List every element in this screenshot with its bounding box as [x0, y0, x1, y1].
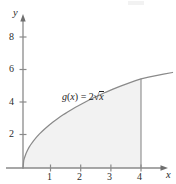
- x-tick-label-2: 2: [77, 172, 82, 182]
- y-tick-label-2: 2: [9, 129, 14, 139]
- x-tick-label-3: 3: [107, 172, 112, 182]
- x-axis-label: x: [166, 170, 171, 181]
- y-axis-label: y: [13, 8, 18, 19]
- figure-container: 8 6 4 2 1 2 3 4 y x g(x) = 2√x: [0, 0, 176, 184]
- equals-sign: =: [78, 91, 89, 102]
- x-tick-label-1: 1: [47, 172, 52, 182]
- y-tick-label-8: 8: [9, 32, 14, 42]
- radicand: x: [99, 91, 104, 102]
- y-tick-label-6: 6: [9, 64, 14, 74]
- x-tick-label-4: 4: [137, 172, 142, 182]
- function-annotation-label: g(x) = 2√x: [62, 91, 104, 102]
- y-tick-label-4: 4: [9, 97, 14, 107]
- y-axis-arrowhead: [20, 14, 25, 22]
